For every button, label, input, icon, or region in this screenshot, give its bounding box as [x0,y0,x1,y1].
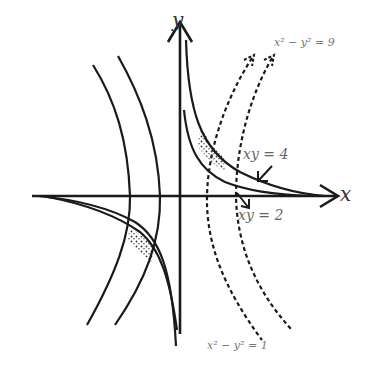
label-xy-2: xy = 2 [238,207,283,223]
curve-x2-y2-1-left [115,56,160,325]
shaded-region-q1 [197,128,225,172]
y-axis-label: y [172,8,183,32]
x-axis-label: x [340,182,351,206]
dashed-arrowhead-1 [244,55,254,66]
label-xy-4: xy = 4 [243,146,288,162]
diagram-canvas [0,0,372,368]
curve-xy-2-q3 [48,197,177,330]
pointer-arrow-xy-4 [258,166,272,181]
hyperbola-diagram: y x xy = 4 xy = 2 x² − y² = 9 x² − y² = … [0,0,372,368]
curve-xy-4-q1 [186,40,325,196]
label-x2-y2-1: x² − y² = 1 [207,339,268,352]
curve-xy-4-q3 [38,196,176,346]
label-x2-y2-9: x² − y² = 9 [274,36,335,49]
curve-x2-y2-1-right [207,58,262,340]
